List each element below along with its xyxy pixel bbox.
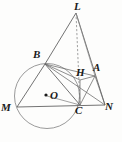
vertex-label-A: A bbox=[93, 62, 100, 73]
vertex-label-O: O bbox=[50, 90, 58, 101]
vertex-label-L: L bbox=[74, 1, 81, 12]
segment-BM bbox=[17, 64, 45, 107]
segment-AN bbox=[95, 76, 105, 105]
vertex-label-M: M bbox=[1, 102, 11, 113]
segment-BH bbox=[45, 64, 80, 80]
geometry-figure: L B H A M C N O bbox=[0, 0, 122, 142]
vertex-label-C: C bbox=[75, 105, 82, 116]
segment-BA bbox=[45, 64, 95, 76]
segment-LB bbox=[45, 13, 76, 64]
geometry-canvas bbox=[0, 0, 122, 142]
vertex-label-B: B bbox=[33, 49, 40, 60]
segment-MN bbox=[17, 105, 105, 107]
vertex-label-N: N bbox=[105, 101, 113, 112]
vertex-label-H: H bbox=[76, 67, 85, 78]
segment-AC bbox=[80, 76, 95, 105]
center-dot bbox=[44, 93, 47, 96]
